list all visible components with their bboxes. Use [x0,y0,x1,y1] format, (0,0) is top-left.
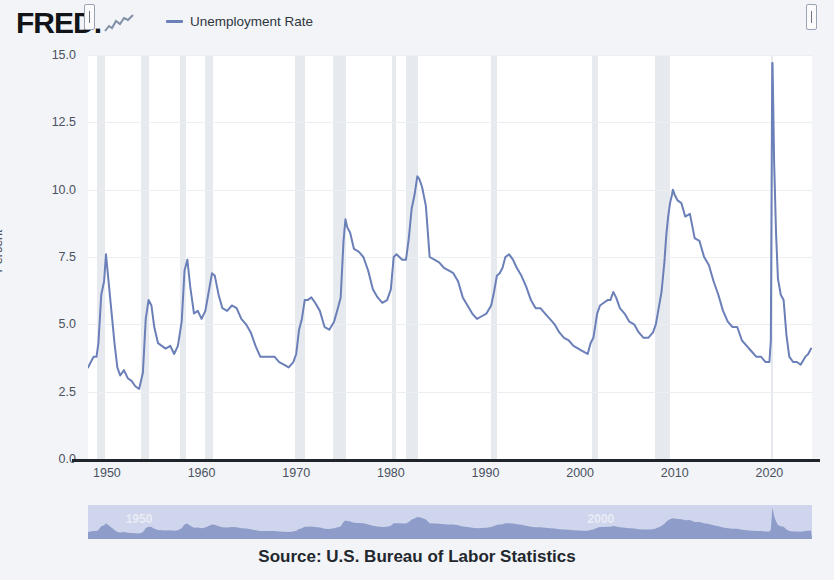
y-axis-tick-label: 10.0 [0,183,76,197]
y-axis-tick-label: 12.5 [0,115,76,129]
range-navigator[interactable] [88,505,812,539]
x-axis-tick-label: 2010 [661,466,689,480]
x-axis-tick-label: 1990 [472,466,500,480]
navigator-year-label: 2000 [588,512,615,526]
x-axis-tick-label: 2020 [756,466,784,480]
x-axis-tick-label: 1960 [188,466,216,480]
navigator-right-handle[interactable] [806,4,817,30]
navigator-left-handle[interactable] [84,4,95,30]
drag-handle-icon [811,11,812,23]
series-line-unemployment-rate [88,55,812,459]
chart-canvas: Percent 0.02.55.07.510.012.515.0 1950196… [0,44,834,494]
legend-series-label: Unemployment Rate [190,14,313,29]
chart-legend[interactable]: Unemployment Rate [166,14,313,29]
sparkline-icon [104,14,134,34]
y-axis-tick-label: 15.0 [0,48,76,62]
x-axis-tick-label: 1980 [377,466,405,480]
y-axis-tick-label: 2.5 [0,385,76,399]
plot-area[interactable] [88,55,812,459]
y-axis-tick-label: 0.0 [0,452,76,466]
chart-header: FRED. Unemployment Rate [0,0,834,46]
x-axis-line [72,459,820,462]
fred-chart-screenshot: FRED. Unemployment Rate Percent 0.02.55.… [0,0,834,580]
y-axis-tick-label: 7.5 [0,250,76,264]
navigator-year-label: 1950 [126,512,153,526]
source-caption: Source: U.S. Bureau of Labor Statistics [0,547,834,567]
legend-color-swatch [166,20,183,23]
x-axis-tick-label: 2000 [566,466,594,480]
x-axis-tick-label: 1970 [282,466,310,480]
drag-handle-icon [89,11,90,23]
x-axis-tick-label: 1950 [93,466,121,480]
navigator-area-chart [88,505,812,539]
y-axis-tick-label: 5.0 [0,317,76,331]
fred-logo-text: FRED [16,6,94,39]
